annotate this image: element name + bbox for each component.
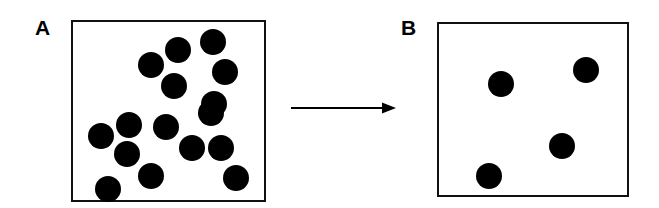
- figure-canvas: A B: [0, 0, 659, 208]
- arrow-shaft-and-head: [291, 103, 396, 114]
- arrow-head-icon: [382, 103, 396, 114]
- particle-b-3: [549, 133, 575, 159]
- panel-b-label: B: [401, 17, 416, 38]
- particle-b-2: [573, 57, 599, 83]
- particle-b-1: [488, 71, 514, 97]
- particle-b-4: [476, 163, 502, 189]
- panel-b-box: [437, 22, 629, 197]
